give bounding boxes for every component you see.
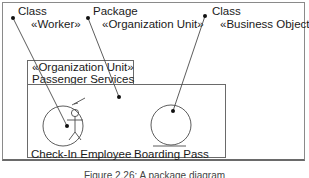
element-label-boarding-pass: Boarding Pass: [134, 148, 209, 161]
business-object-leader-line: [173, 16, 205, 111]
worker-icon: [43, 98, 85, 146]
figure-caption: Figure 2.26: A package diagram: [0, 170, 309, 178]
element-label-check-in-employee: Check-In Employee: [31, 148, 131, 161]
package-leader-line: [88, 18, 119, 97]
worker-leader-line: [13, 18, 67, 126]
business-object-icon: [151, 105, 191, 146]
